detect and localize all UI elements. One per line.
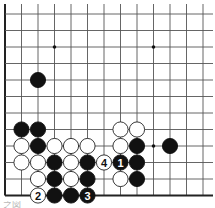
black-stone <box>47 171 62 186</box>
move-number-label: 2 <box>35 190 41 202</box>
black-stone-move-3: 3 <box>80 188 95 203</box>
black-stone <box>47 155 62 170</box>
black-stone <box>63 188 78 203</box>
white-stone <box>63 138 78 153</box>
white-stone <box>113 138 128 153</box>
black-stone <box>30 138 45 153</box>
white-stone <box>63 171 78 186</box>
diagram-caption: 之図 <box>3 201 21 208</box>
white-stone-move-2: 2 <box>30 188 45 203</box>
move-number-label: 3 <box>84 190 90 202</box>
black-stone <box>129 138 144 153</box>
white-stone <box>30 171 45 186</box>
star-point-icon <box>152 45 156 49</box>
star-point-icon <box>53 45 57 49</box>
white-stone <box>113 122 128 137</box>
move-number-label: 1 <box>117 157 123 169</box>
black-stone <box>30 122 45 137</box>
black-stone <box>30 72 45 87</box>
white-stone <box>14 155 29 170</box>
white-stone <box>30 155 45 170</box>
white-stone <box>113 171 128 186</box>
black-stone <box>129 171 144 186</box>
black-stone <box>162 138 177 153</box>
white-stone <box>14 138 29 153</box>
black-stone-move-1: 1 <box>113 155 128 170</box>
white-stone <box>80 138 95 153</box>
black-stone <box>80 171 95 186</box>
go-board-diagram: 4123 <box>0 0 215 208</box>
black-stone <box>14 122 29 137</box>
white-stone <box>129 122 144 137</box>
star-point-icon <box>152 144 156 148</box>
move-number-label: 4 <box>101 157 108 169</box>
black-stone <box>129 155 144 170</box>
white-stone <box>47 138 62 153</box>
stones-layer: 4123 <box>14 72 178 203</box>
white-stone-move-4: 4 <box>96 155 111 170</box>
white-stone <box>63 155 78 170</box>
black-stone <box>80 155 95 170</box>
black-stone <box>47 188 62 203</box>
